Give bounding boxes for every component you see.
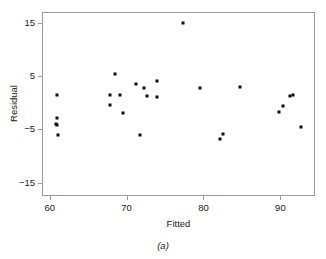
x-tick-label: 70 [121,203,132,213]
y-tick-label: −5 [24,125,35,135]
data-point [219,137,222,140]
data-point [282,104,285,107]
data-point [139,133,142,136]
data-point [121,112,124,115]
data-point [182,22,185,25]
y-tick-label: −15 [19,178,35,188]
x-tick-label: 80 [198,203,209,213]
x-tick-mark [50,196,51,200]
data-point [143,87,146,90]
y-tick-mark [38,76,42,77]
x-tick-label: 60 [44,203,55,213]
x-axis-title: Fitted [42,218,315,229]
panel-caption: (a) [0,240,326,251]
x-tick-mark [203,196,204,200]
data-point [277,110,280,113]
data-point [55,94,58,97]
data-point [55,124,58,127]
data-point [288,94,291,97]
x-tick-mark [127,196,128,200]
data-point [57,133,60,136]
y-tick-mark [38,183,42,184]
data-point [108,103,111,106]
x-tick-mark [280,196,281,200]
data-point [198,87,201,90]
y-tick-mark [38,129,42,130]
data-point [114,72,117,75]
data-point [146,94,149,97]
x-tick-label: 90 [275,203,286,213]
y-tick-label: 15 [24,18,35,28]
plot-area-frame [42,12,315,196]
data-point [292,93,295,96]
data-point [239,86,242,89]
data-point [119,94,122,97]
data-point [222,132,225,135]
data-point [108,94,111,97]
data-point [156,95,159,98]
y-axis-title: Residual [8,74,19,134]
data-point [156,79,159,82]
residual-scatter-figure: 155−5−15 60708090 Residual Fitted (a) [0,0,326,259]
data-point [55,116,58,119]
y-tick-label: 5 [30,71,35,81]
y-tick-mark [38,23,42,24]
data-point [300,126,303,129]
data-point [134,83,137,86]
